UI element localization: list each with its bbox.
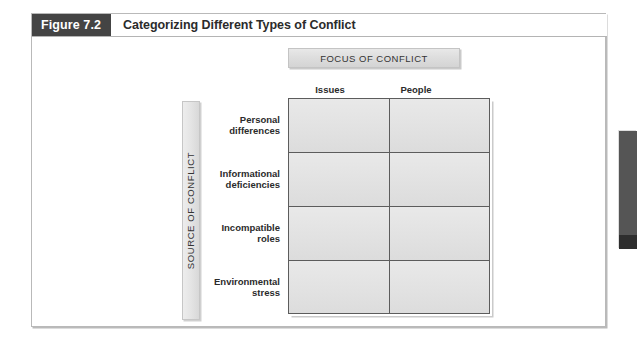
row-cells — [288, 98, 492, 152]
row-label-line-1: Informational — [220, 168, 280, 179]
row-label-line-1: Environmental — [214, 276, 280, 287]
table-row: Environmental stress — [206, 260, 492, 314]
source-of-conflict-bar: SOURCE OF CONFLICT — [182, 101, 200, 320]
cell-personal-differences-people[interactable] — [389, 98, 490, 152]
table-row: Incompatible roles — [206, 206, 492, 260]
figure-container: Figure 7.2 Categorizing Different Types … — [31, 13, 606, 327]
row-label-line-2: roles — [257, 233, 280, 244]
cell-incompatible-roles-people[interactable] — [389, 206, 490, 260]
table-row: Personal differences — [206, 98, 492, 152]
figure-number-label: Figure 7.2 — [32, 14, 111, 36]
row-label-line-1: Personal — [240, 114, 280, 125]
row-label-line-2: differences — [229, 125, 280, 136]
table-row: Informational deficiencies — [206, 152, 492, 206]
conflict-matrix: Personal differences Informational defic… — [206, 98, 492, 316]
figure-title-bar: Figure 7.2 Categorizing Different Types … — [32, 14, 607, 36]
row-label-informational-deficiencies: Informational deficiencies — [206, 168, 288, 191]
row-label-line-1: Incompatible — [221, 222, 280, 233]
row-label-line-2: stress — [252, 287, 280, 298]
cell-personal-differences-issues[interactable] — [288, 98, 389, 152]
focus-of-conflict-banner: FOCUS OF CONFLICT — [288, 48, 460, 68]
cell-incompatible-roles-issues[interactable] — [288, 206, 389, 260]
column-header-people: People — [374, 84, 458, 95]
row-label-personal-differences: Personal differences — [206, 114, 288, 137]
row-label-environmental-stress: Environmental stress — [206, 276, 288, 299]
chapter-edge-tab-accent — [619, 235, 637, 249]
title-divider — [32, 36, 607, 37]
row-cells — [288, 152, 492, 206]
cell-informational-deficiencies-issues[interactable] — [288, 152, 389, 206]
source-of-conflict-label: SOURCE OF CONFLICT — [186, 152, 197, 269]
column-header-issues: Issues — [288, 84, 372, 95]
figure-title: Categorizing Different Types of Conflict — [111, 14, 607, 36]
cell-environmental-stress-issues[interactable] — [288, 260, 389, 314]
row-label-line-2: deficiencies — [226, 179, 280, 190]
column-headers: Issues People — [288, 84, 488, 98]
row-cells — [288, 260, 492, 314]
cell-environmental-stress-people[interactable] — [389, 260, 490, 314]
cell-informational-deficiencies-people[interactable] — [389, 152, 490, 206]
row-cells — [288, 206, 492, 260]
row-label-incompatible-roles: Incompatible roles — [206, 222, 288, 245]
chapter-edge-tab — [619, 131, 637, 249]
focus-of-conflict-label: FOCUS OF CONFLICT — [320, 53, 428, 64]
